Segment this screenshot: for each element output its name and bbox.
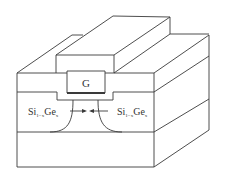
ridge-right-diagonal xyxy=(114,17,170,55)
right-slab-top xyxy=(114,34,209,73)
mosfet-drawing: G Si1−xGex Si1−xGex xyxy=(0,0,225,180)
mosfet-diagram: G Si1−xGex Si1−xGex xyxy=(0,0,225,180)
ridge-left-diagonal xyxy=(56,16,113,55)
right-side-face xyxy=(154,35,209,167)
source-label: Si1−xGex xyxy=(28,106,59,118)
left-slab-top xyxy=(17,35,83,73)
gate-label: G xyxy=(82,77,90,89)
drain-label: Si1−xGex xyxy=(117,106,148,118)
side-layer-line-2 xyxy=(154,99,209,132)
side-layer-line-1 xyxy=(154,56,209,92)
left-arrowhead-icon xyxy=(82,109,87,113)
gate-ridge xyxy=(56,55,114,73)
ridge-back-top xyxy=(113,16,170,17)
right-arrowhead-icon xyxy=(89,109,94,113)
